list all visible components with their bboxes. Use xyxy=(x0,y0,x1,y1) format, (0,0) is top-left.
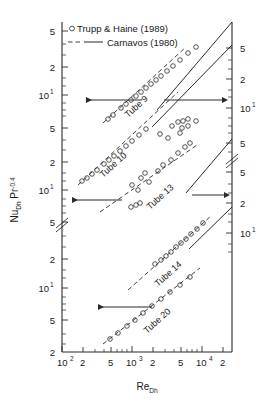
y-right-tick-label: 10 xyxy=(240,103,251,114)
y-left-tick-label-10: 10 xyxy=(38,283,49,294)
y-right-tick-label-group: 10 1 xyxy=(240,101,256,114)
x-axis-ticks xyxy=(62,346,223,352)
x-tick-label: 2 xyxy=(80,357,85,368)
y-left-tick-exponent: 1 xyxy=(50,88,54,95)
y-left-tick-label: 5 xyxy=(50,217,55,228)
x-tick-label: 10 xyxy=(126,357,137,368)
y-left-tick-label: 2 xyxy=(50,254,55,265)
chart-svg: 5 2 10 1 5 2 10 1 5 2 10 1 5 2 NuDh Pr-0… xyxy=(0,0,274,405)
x-tick-label-group: 10 4 xyxy=(196,355,213,368)
y-right-tick-label: 5 xyxy=(240,167,245,178)
y-left-tick-label: 2 xyxy=(50,157,55,168)
y-left-tick-label-group: 10 1 xyxy=(38,88,54,101)
legend-label-trupp-haine: Trupp & Haine (1989) xyxy=(77,23,168,34)
legend: Trupp & Haine (1989) Carnavos (1980) xyxy=(68,23,178,48)
tube-10-markers xyxy=(80,127,149,184)
y-axis-title-main: Nu xyxy=(9,210,20,223)
series-tube-13: Tube 13 xyxy=(100,139,232,212)
x-tick-label: 10 xyxy=(57,357,68,368)
y-left-tick-label: 2 xyxy=(50,62,55,73)
y-left-ticks xyxy=(62,31,68,344)
y-right-tick-label: 5 xyxy=(240,43,245,54)
y-axis-title-exponent: -0.4 xyxy=(9,177,16,189)
x-tick-exponent: 2 xyxy=(70,355,74,362)
tube-9-markers xyxy=(106,45,199,122)
y-left-tick-label: 5 xyxy=(50,315,55,326)
x-axis-title-main: Re xyxy=(136,381,149,392)
y-right-tick-exponent: 1 xyxy=(252,226,256,233)
x-axis-title-sub: Dh xyxy=(149,387,158,394)
legend-marker-circle-icon xyxy=(70,26,75,31)
y-left-tick-label: 5 xyxy=(50,26,55,37)
y-left-tick-label-group: 10 1 xyxy=(38,281,54,294)
y-right-tick-label: 10 xyxy=(240,228,251,239)
y-right-tick-label: 5 xyxy=(240,138,245,149)
series-tube-14: Tube 14 xyxy=(128,216,211,290)
y-right-tick-exponent: 1 xyxy=(252,101,256,108)
x-tick-label: 5 xyxy=(178,357,183,368)
x-axis-title: ReDh xyxy=(136,381,157,394)
x-tick-label: 2 xyxy=(150,357,155,368)
y-left-tick-exponent: 1 xyxy=(50,281,54,288)
y-right-ticks xyxy=(226,48,232,252)
figure-root: 5 2 10 1 5 2 10 1 5 2 10 1 5 2 NuDh Pr-0… xyxy=(0,0,274,405)
x-tick-label: 10 xyxy=(196,357,207,368)
y-left-tick-labels: 5 2 10 1 5 2 10 1 5 2 10 1 5 2 xyxy=(38,26,55,358)
y-left-tick-label: 5 xyxy=(50,123,55,134)
y-right-tick-label-group: 10 1 xyxy=(240,226,256,239)
y-left-tick-exponent: 1 xyxy=(50,183,54,190)
x-tick-label: 2 xyxy=(220,357,225,368)
y-left-tick-label: 10 xyxy=(38,185,49,196)
x-tick-exponent: 4 xyxy=(209,355,213,362)
x-tick-label: 5 xyxy=(108,357,113,368)
series-label-tube-10: Tube 10 xyxy=(98,150,129,179)
y-right-tick-label: 2 xyxy=(240,198,245,209)
legend-label-carnavos: Carnavos (1980) xyxy=(107,37,178,48)
svg-text:NuDh Pr-0.4: NuDh Pr-0.4 xyxy=(9,177,22,222)
x-tick-label-group: 10 3 xyxy=(126,355,143,368)
y-left-tick-label-group: 10 1 xyxy=(38,183,54,196)
unlabeled-scatter-cloud xyxy=(158,117,199,141)
x-tick-exponent: 3 xyxy=(139,355,143,362)
series-label-tube-13: Tube 13 xyxy=(145,182,176,211)
y-right-tick-label: 2 xyxy=(240,74,245,85)
x-tick-label-group: 10 2 xyxy=(57,355,74,368)
x-axis-tick-labels: 10 2 2 5 10 3 2 5 10 4 2 xyxy=(57,355,225,368)
y-right-tick-labels: 5 2 10 1 5 5 2 10 1 xyxy=(240,43,256,239)
y-left-tick-label: 10 xyxy=(38,90,49,101)
y-left-tick-label-bottom: 2 xyxy=(50,347,55,358)
y-axis-title: NuDh Pr-0.4 xyxy=(9,177,22,222)
series-tube-10: Tube 10 xyxy=(78,45,232,185)
